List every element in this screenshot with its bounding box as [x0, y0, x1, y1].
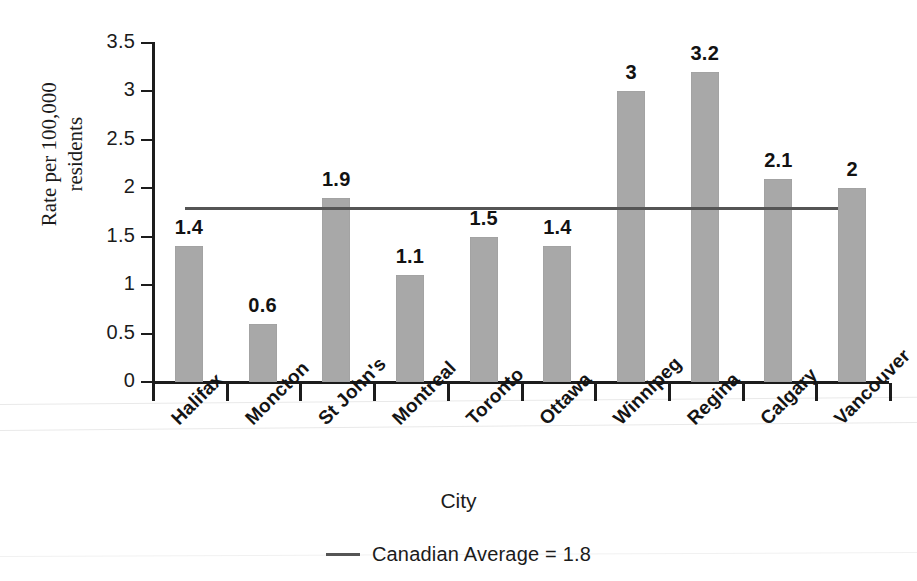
y-axis-tick [141, 42, 153, 44]
x-axis-tick [889, 383, 892, 401]
bar-value-label: 0.6 [223, 294, 303, 317]
bar [249, 324, 277, 382]
average-reference-line [185, 207, 838, 210]
y-axis-tick-label: 3 [81, 78, 135, 101]
y-axis-tick-label: 3.5 [81, 30, 135, 53]
y-axis-tick-label: 0.5 [81, 321, 135, 344]
bar-value-label: 3 [591, 61, 671, 84]
y-axis-title-line1: Rate per 100,000 [36, 39, 62, 269]
bar-value-label: 1.4 [517, 216, 597, 239]
bar [617, 91, 645, 382]
bar [396, 275, 424, 382]
y-axis-tick-label: 2.5 [81, 127, 135, 150]
y-axis-tick [141, 333, 153, 335]
chart-legend: Canadian Average = 1.8 [0, 543, 917, 566]
y-axis-tick-label: 0 [81, 369, 135, 392]
bar [322, 198, 350, 382]
bar-value-label: 1.1 [370, 245, 450, 268]
y-axis-tick-label: 1 [81, 272, 135, 295]
y-axis-tick [141, 90, 153, 92]
y-axis-tick [141, 139, 153, 141]
bar-value-label: 2.1 [738, 149, 818, 172]
legend-line-swatch-icon [326, 553, 360, 556]
x-axis-tick [373, 383, 376, 401]
bar-value-label: 1.4 [149, 216, 229, 239]
bar [691, 72, 719, 382]
y-axis-tick-label: 1.5 [81, 224, 135, 247]
bar-value-label: 1.5 [444, 207, 524, 230]
legend-label: Canadian Average = 1.8 [372, 543, 591, 566]
x-axis-tick [815, 383, 818, 401]
y-axis-tick [141, 284, 153, 286]
bar-value-label: 3.2 [665, 42, 745, 65]
x-axis-tick [152, 383, 155, 401]
bar [175, 246, 203, 382]
bar-chart: Rate per 100,000 residents 00.511.522.53… [0, 0, 917, 581]
bar-value-label: 2 [812, 158, 892, 181]
x-axis-tick [594, 383, 597, 401]
bar-value-label: 1.9 [296, 168, 376, 191]
bar [838, 188, 866, 382]
y-axis-tick-label: 2 [81, 175, 135, 198]
bar [470, 237, 498, 382]
y-axis-tick [141, 187, 153, 189]
x-axis-title: City [0, 489, 917, 513]
bar [543, 246, 571, 382]
